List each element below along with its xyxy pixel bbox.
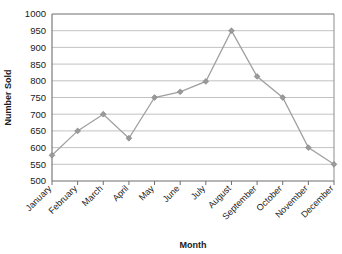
x-axis-tick-label: June (161, 183, 182, 204)
chart-canvas: 5005506006507007508008509009501000Januar… (0, 0, 342, 254)
y-axis-tick-label: 950 (30, 25, 46, 36)
x-axis-tick-label: March (80, 183, 105, 208)
y-axis-tick-label: 850 (30, 59, 46, 70)
y-axis-tick-label: 750 (30, 92, 46, 103)
x-axis-title: Month (180, 240, 207, 250)
x-axis-tick-label: April (111, 183, 131, 203)
x-axis-tick-label: May (137, 183, 156, 202)
y-axis-tick-label: 650 (30, 125, 46, 136)
y-axis-tick-label: 600 (30, 142, 46, 153)
y-axis-title: Number Sold (3, 69, 13, 125)
x-axis-tick-label: July (189, 183, 208, 202)
y-axis-tick-label: 700 (30, 109, 46, 120)
x-axis-tick-label: February (47, 183, 80, 216)
y-axis-tick-label: 550 (30, 159, 46, 170)
y-axis-tick-label: 1000 (25, 8, 46, 19)
y-axis-tick-label: 800 (30, 75, 46, 86)
line-chart: 5005506006507007508008509009501000Januar… (0, 0, 342, 254)
y-axis-tick-label: 900 (30, 42, 46, 53)
